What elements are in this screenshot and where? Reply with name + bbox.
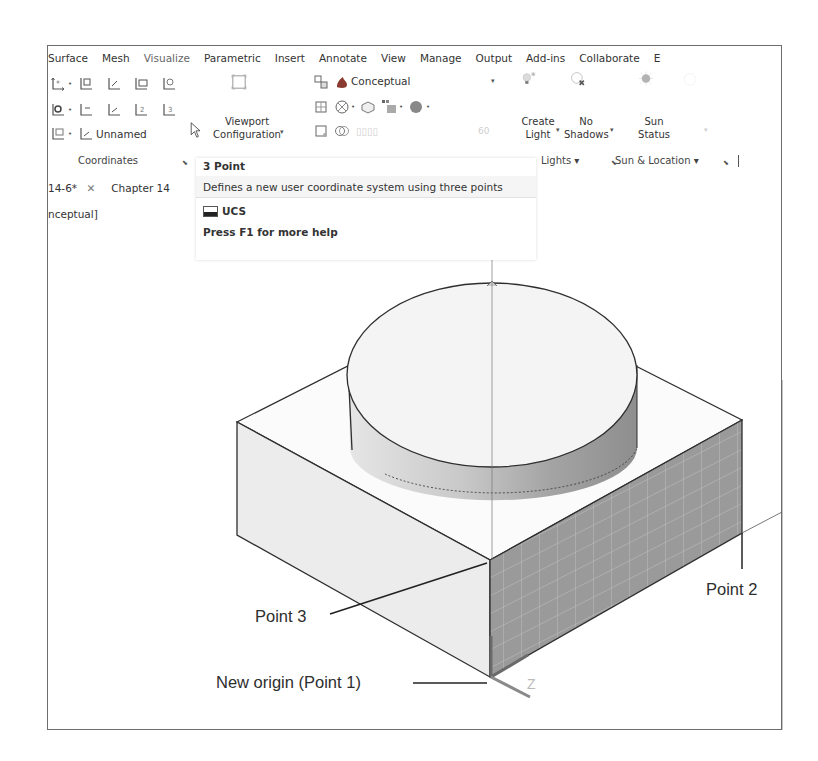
no-shadows-label: Shadows xyxy=(564,129,609,140)
close-icon[interactable]: ✕ xyxy=(86,182,95,194)
create-light-button[interactable]: Create Light xyxy=(518,115,558,141)
tab-insert[interactable]: Insert xyxy=(268,52,312,64)
visual-style-dropdown[interactable]: Conceptual xyxy=(351,75,410,88)
no-shadows-button[interactable]: No Shadows xyxy=(564,115,608,141)
edge-effects-icon[interactable] xyxy=(360,99,376,115)
chevron-down-icon[interactable]: • xyxy=(351,103,355,111)
ucs-view-icon[interactable] xyxy=(50,102,66,118)
chevron-down-icon[interactable]: ▾ xyxy=(610,126,614,134)
named-viewports-icon[interactable] xyxy=(313,74,329,90)
ucs-named-combo-icon xyxy=(78,126,94,142)
callout-point-2: Point 2 xyxy=(706,580,757,599)
ucs-previous-icon[interactable] xyxy=(106,76,122,92)
sun-location-panel-title: Sun & Location xyxy=(615,155,690,166)
ucs-origin-icon[interactable] xyxy=(78,102,94,118)
tab-visualize[interactable]: Visualize xyxy=(137,52,197,64)
callout-point-3: Point 3 xyxy=(255,607,306,626)
viewport-configuration-label: Viewport xyxy=(225,116,269,127)
sun-status-button[interactable]: Sun Status xyxy=(636,115,672,141)
chevron-down-icon[interactable]: ▾ xyxy=(556,126,560,134)
chevron-down-icon[interactable]: • xyxy=(399,103,403,111)
chevron-down-icon[interactable]: • xyxy=(68,80,72,88)
tooltip: 3 Point Defines a new user coordinate sy… xyxy=(196,158,536,260)
tab-express[interactable]: E xyxy=(647,52,668,64)
tab-output[interactable]: Output xyxy=(469,52,519,64)
mouse-cursor-icon xyxy=(188,122,202,142)
callout-new-origin: New origin (Point 1) xyxy=(216,673,361,692)
lights-panel-label[interactable]: Lights ▾ xyxy=(541,155,579,166)
tab-parametric[interactable]: Parametric xyxy=(197,52,268,64)
named-ucs-combo[interactable]: Unnamed xyxy=(96,128,147,141)
chevron-down-icon: ▾ xyxy=(704,126,708,134)
tooltip-command: UCS xyxy=(203,205,246,217)
sky-icon[interactable] xyxy=(682,72,712,102)
tab-collaborate[interactable]: Collaborate xyxy=(572,52,646,64)
ucs-world-icon[interactable] xyxy=(78,76,94,92)
tooltip-command-name: UCS xyxy=(222,205,246,217)
viewport-visual-style-label[interactable]: nceptual] xyxy=(48,208,98,220)
disabled-control: ▯▯▯▯ xyxy=(356,125,378,138)
tooltip-help: Press F1 for more help xyxy=(203,226,338,238)
isolate-icon[interactable] xyxy=(334,123,350,139)
tab-view[interactable]: View xyxy=(374,52,413,64)
ucs-zaxis-icon[interactable] xyxy=(106,102,122,118)
panel-divider xyxy=(738,155,739,167)
sun-status-icon[interactable] xyxy=(638,71,668,101)
create-light-label: Light xyxy=(526,129,551,140)
ucs-named-icon[interactable] xyxy=(50,126,66,142)
xray-icon[interactable] xyxy=(334,99,350,115)
application-window: Surface Mesh Visualize Parametric Insert… xyxy=(47,45,782,730)
doc-tab-label: 14-6* xyxy=(48,182,77,194)
ucs-icon[interactable] xyxy=(50,76,66,92)
lights-panel-title: Lights xyxy=(541,155,571,166)
chevron-down-icon[interactable]: ▾ xyxy=(491,77,495,85)
svg-text:3: 3 xyxy=(168,106,172,114)
chevron-down-icon[interactable]: • xyxy=(68,106,72,114)
svg-text:2: 2 xyxy=(140,106,144,114)
ribbon-tabs: Surface Mesh Visualize Parametric Insert… xyxy=(48,46,781,70)
chevron-down-icon[interactable]: ▾ xyxy=(280,128,284,136)
panel-launcher-icon[interactable]: ⬊ xyxy=(182,159,188,167)
sun-status-label: Status xyxy=(638,129,670,140)
face-effects-icon[interactable] xyxy=(381,99,397,115)
document-tabs: 14-6* ✕ Chapter 14 xyxy=(48,177,178,199)
tab-manage[interactable]: Manage xyxy=(413,52,469,64)
no-shadows-label: No xyxy=(579,116,593,127)
doc-tab-chapter-14[interactable]: Chapter 14 xyxy=(103,182,178,194)
doc-tab-14-6[interactable]: 14-6* ✕ xyxy=(48,182,103,194)
tab-mesh[interactable]: Mesh xyxy=(95,52,137,64)
viewport-configuration-icon[interactable] xyxy=(231,74,265,108)
coordinates-panel-label: Coordinates xyxy=(78,155,138,166)
viewport-configuration-button[interactable]: Viewport Configuration xyxy=(212,115,282,141)
tab-add-ins[interactable]: Add-ins xyxy=(519,52,572,64)
restore-viewports-icon[interactable] xyxy=(313,123,329,139)
tab-annotate[interactable]: Annotate xyxy=(312,52,374,64)
ucs-3point-icon[interactable]: 3 xyxy=(161,102,177,118)
panel-launcher-icon[interactable]: ⬊ xyxy=(723,159,729,167)
sun-status-label: Sun xyxy=(644,116,663,127)
create-light-icon[interactable] xyxy=(521,71,551,101)
chevron-down-icon[interactable]: • xyxy=(68,130,72,138)
z-axis-label: Z xyxy=(527,676,536,692)
ucs-object-icon[interactable] xyxy=(161,76,177,92)
chevron-down-icon[interactable]: • xyxy=(426,103,430,111)
sun-location-panel-label[interactable]: Sun & Location ▾ xyxy=(615,155,699,166)
join-viewports-icon[interactable] xyxy=(313,99,329,115)
tooltip-description: Defines a new user coordinate system usi… xyxy=(196,176,536,198)
material-icon[interactable] xyxy=(408,99,424,115)
disabled-control: 60 xyxy=(478,125,489,138)
create-light-label: Create xyxy=(521,116,554,127)
tooltip-title: 3 Point xyxy=(203,160,245,172)
viewport-configuration-label: Configuration xyxy=(213,129,281,140)
tab-surface[interactable]: Surface xyxy=(48,52,95,64)
ucs-x-icon[interactable]: 2 xyxy=(133,102,149,118)
command-line-icon xyxy=(203,206,218,217)
ucs-face-icon[interactable] xyxy=(133,76,149,92)
no-shadows-icon[interactable] xyxy=(570,71,600,101)
visual-style-icon xyxy=(334,74,350,90)
